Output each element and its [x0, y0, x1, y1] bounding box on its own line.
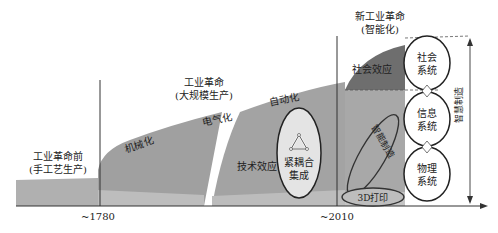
x-axis-arrow-icon — [480, 203, 488, 209]
vertical-label: 智慧制造 — [453, 87, 464, 123]
tight-coupling-line2: 集成 — [289, 169, 309, 181]
era-industrial-title: 工业革命 — [184, 76, 224, 88]
arrow-down-icon — [467, 196, 473, 204]
pre-industrial-band — [16, 178, 98, 206]
info-system-line1: 信息 — [417, 107, 437, 119]
tight-coupling-line1: 紧耦合 — [284, 156, 314, 168]
physical-system-circle — [404, 147, 450, 201]
tick-2010: ~2010 — [320, 211, 354, 222]
label-social-effect: 社会效应 — [352, 63, 392, 75]
social-system-line1: 社会 — [417, 51, 437, 63]
tick-1780: ~1780 — [81, 211, 115, 222]
era-industrial-subtitle: (大规模生产) — [175, 89, 233, 101]
industrial-revolution-diagram: 工业革命前 (手工艺生产) 工业革命 (大规模生产) 新工业革命 (智能化) 机… — [0, 0, 498, 233]
era-pre-title: 工业革命前 — [33, 150, 83, 162]
physical-system-line1: 物理 — [417, 162, 437, 174]
top-dashed-line — [405, 36, 470, 38]
era-new-subtitle: (智能化) — [361, 23, 399, 35]
social-system-line2: 系统 — [417, 64, 437, 76]
tight-coupling-ellipse — [277, 108, 321, 198]
3d-printing-label: 3D打印 — [358, 192, 389, 203]
era-new-title: 新工业革命 — [355, 10, 405, 22]
info-system-line2: 系统 — [417, 120, 437, 132]
label-tech-effect: 技术效应 — [237, 160, 277, 172]
era-pre-subtitle: (手工艺生产) — [29, 163, 87, 175]
info-system-circle — [404, 92, 450, 146]
arrow-up-icon — [467, 38, 473, 46]
physical-system-line2: 系统 — [417, 175, 437, 187]
social-system-circle — [404, 36, 450, 90]
